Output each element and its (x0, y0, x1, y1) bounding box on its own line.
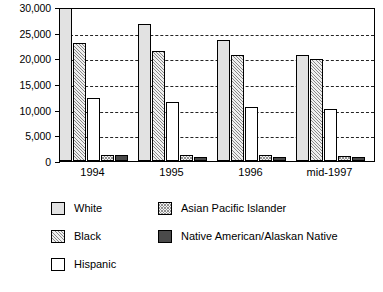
legend-label: White (74, 202, 102, 215)
legend-label: Hispanic (74, 258, 116, 271)
legend-label: Black (74, 230, 101, 243)
legend-item[interactable]: Asian Pacific Islander (158, 200, 286, 216)
x-axis-tick-label: 1996 (238, 166, 262, 179)
bar-white-1996 (217, 40, 231, 161)
bar-api-1994 (101, 155, 115, 161)
bar-naan-1995 (194, 157, 208, 161)
bar-white-mid-1997 (296, 55, 310, 161)
bar-chart: 05,00010,00015,00020,00025,00030,000 199… (0, 0, 383, 292)
y-axis-tick-label: 25,000 (19, 29, 51, 39)
bar-group (297, 9, 374, 161)
bar-white-1995 (138, 24, 152, 161)
y-axis-tick-label: 5,000 (25, 131, 51, 141)
legend-swatch-hispanic (51, 258, 65, 271)
legend-item[interactable]: Native American/Alaskan Native (158, 228, 338, 244)
y-axis-tick-label: 30,000 (19, 3, 51, 13)
legend-item[interactable]: Black (51, 228, 101, 244)
y-axis-tick-label: 20,000 (19, 54, 51, 64)
bar-group-inner (60, 9, 139, 161)
bar-white-1994 (60, 9, 72, 161)
chart-legend: WhiteBlackHispanicAsian Pacific Islander… (0, 196, 383, 286)
bar-hispanic-mid-1997 (324, 109, 338, 161)
bar-naan-1996 (273, 157, 287, 161)
legend-item[interactable]: White (51, 200, 102, 216)
bar-hispanic-1996 (245, 107, 259, 161)
x-axis-tick-label: 1994 (80, 166, 104, 179)
y-axis: 05,00010,00015,00020,00025,00030,000 (0, 8, 55, 162)
legend-item[interactable]: Hispanic (51, 256, 116, 272)
bar-group (60, 9, 139, 161)
bar-group-inner (139, 9, 218, 161)
bar-naan-1994 (115, 155, 129, 161)
bar-api-mid-1997 (338, 156, 352, 161)
bar-hispanic-1994 (87, 98, 101, 161)
y-axis-tick-label: 0 (45, 157, 51, 167)
bar-black-1995 (152, 51, 166, 161)
bar-black-1994 (73, 43, 87, 161)
x-axis: 199419951996mid-1997 (59, 164, 375, 184)
bar-api-1996 (259, 155, 273, 161)
plot-area (59, 8, 375, 162)
bar-group (218, 9, 297, 161)
bar-api-1995 (180, 155, 194, 161)
legend-swatch-naan (158, 230, 172, 243)
bar-group-inner (297, 9, 374, 161)
bar-group-inner (218, 9, 297, 161)
legend-swatch-api (158, 202, 172, 215)
bar-group (139, 9, 218, 161)
legend-swatch-black (51, 230, 65, 243)
legend-label: Asian Pacific Islander (181, 202, 286, 215)
legend-label: Native American/Alaskan Native (181, 230, 338, 243)
y-axis-tick-mark (55, 162, 60, 163)
bar-hispanic-1995 (166, 102, 180, 161)
bar-black-mid-1997 (310, 59, 324, 161)
bar-black-1996 (231, 55, 245, 161)
legend-swatch-white (51, 202, 65, 215)
bar-naan-mid-1997 (352, 157, 366, 161)
bars-layer (60, 9, 374, 161)
x-axis-tick-label: 1995 (159, 166, 183, 179)
plot-area-wrapper: 05,00010,00015,00020,00025,00030,000 199… (0, 8, 383, 190)
x-axis-tick-label: mid-1997 (307, 166, 353, 179)
y-axis-tick-label: 15,000 (19, 80, 51, 90)
y-axis-tick-label: 10,000 (19, 106, 51, 116)
